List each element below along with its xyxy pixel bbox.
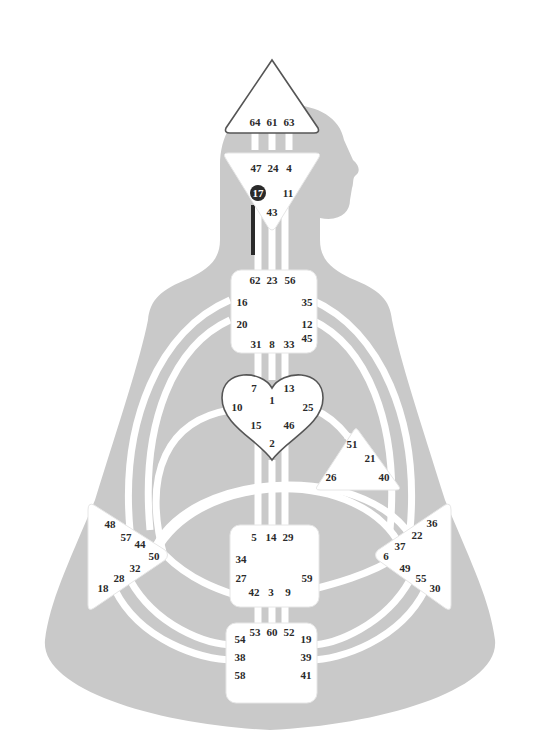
gate-24: 24: [268, 162, 280, 174]
gate-21: 21: [365, 452, 376, 464]
head-center[interactable]: 64 61 63: [226, 60, 319, 133]
gate-35: 35: [302, 296, 314, 308]
gate-48: 48: [105, 518, 117, 530]
bodygraph: 64 61 63 47 24 4 17 11 43 62 23 56 16 35…: [0, 0, 539, 753]
throat-center[interactable]: 62 23 56 16 35 20 12 45 31 8 33: [231, 270, 317, 353]
gate-59: 59: [302, 572, 314, 584]
gate-44: 44: [135, 538, 147, 550]
gate-29: 29: [283, 531, 295, 543]
gate-63: 63: [284, 116, 296, 128]
gate-16: 16: [237, 296, 249, 308]
gate-2: 2: [269, 437, 275, 449]
gate-22: 22: [412, 529, 424, 541]
gate-4: 4: [286, 162, 292, 174]
gate-23: 23: [267, 274, 279, 286]
gate-14: 14: [266, 531, 278, 543]
gate-31: 31: [251, 338, 262, 350]
gate-56: 56: [285, 274, 297, 286]
gate-54: 54: [235, 633, 247, 645]
gate-38: 38: [235, 651, 247, 663]
gate-18: 18: [98, 582, 110, 594]
gate-26: 26: [326, 471, 338, 483]
gate-50: 50: [149, 550, 161, 562]
gate-47: 47: [251, 162, 263, 174]
gate-1: 1: [269, 394, 275, 406]
gate-12: 12: [302, 318, 314, 330]
gate-45: 45: [302, 332, 314, 344]
gate-28: 28: [114, 572, 126, 584]
gate-53: 53: [250, 626, 262, 638]
gate-58: 58: [235, 669, 247, 681]
gate-55: 55: [416, 572, 428, 584]
gate-62: 62: [250, 274, 262, 286]
gate-19: 19: [301, 633, 313, 645]
gate-3: 3: [268, 586, 274, 598]
gate-36: 36: [427, 517, 439, 529]
gate-6: 6: [383, 550, 389, 562]
gate-43: 43: [267, 206, 279, 218]
gate-34: 34: [236, 553, 248, 565]
gate-52: 52: [284, 626, 296, 638]
sacral-center[interactable]: 5 14 29 34 27 59 42 3 9: [230, 525, 319, 607]
root-center[interactable]: 53 60 52 54 19 38 39 58 41: [226, 623, 317, 703]
gate-57: 57: [121, 531, 133, 543]
gate-61: 61: [267, 116, 278, 128]
gate-30: 30: [430, 582, 442, 594]
gate-5: 5: [251, 531, 257, 543]
gate-32: 32: [130, 562, 142, 574]
gate-60: 60: [267, 626, 279, 638]
gate-46: 46: [284, 419, 296, 431]
gate-41: 41: [301, 669, 312, 681]
gate-9: 9: [285, 586, 291, 598]
gate-64: 64: [250, 116, 262, 128]
gate-33: 33: [284, 338, 296, 350]
gate-15: 15: [251, 419, 263, 431]
gate-7: 7: [251, 382, 257, 394]
gate-25: 25: [303, 401, 315, 413]
gate-20: 20: [237, 318, 249, 330]
gate-27: 27: [236, 572, 248, 584]
gate-17: 17: [253, 187, 265, 199]
gate-42: 42: [249, 586, 261, 598]
gate-40: 40: [379, 471, 391, 483]
gate-37: 37: [395, 540, 407, 552]
gate-11: 11: [283, 187, 293, 199]
gate-10: 10: [232, 401, 244, 413]
gate-8: 8: [269, 338, 275, 350]
gate-13: 13: [284, 382, 296, 394]
gate-51: 51: [347, 438, 358, 450]
gate-49: 49: [400, 562, 412, 574]
gate-39: 39: [301, 651, 313, 663]
